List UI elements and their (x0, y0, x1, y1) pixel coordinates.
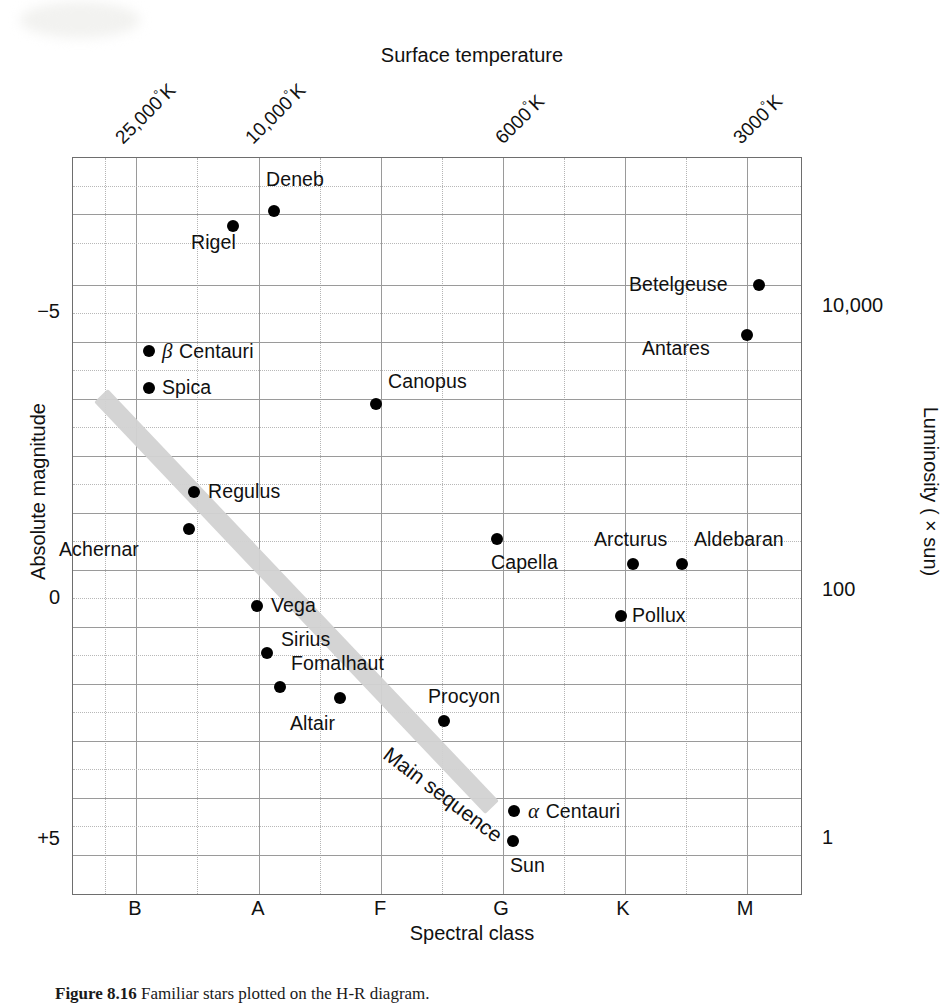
gridline-vertical (197, 158, 198, 894)
star-label: Deneb (266, 168, 324, 191)
star-point[interactable] (491, 533, 503, 545)
gridline-vertical (625, 158, 626, 894)
gridline-horizontal (73, 855, 801, 856)
star-label: α Centauri (528, 799, 620, 824)
star-label: Vega (271, 594, 316, 617)
gridline-horizontal (73, 541, 801, 542)
left-axis-title: Absolute magnitude (27, 362, 50, 622)
lum-tick-100: 100 (822, 578, 855, 601)
lum-tick-1: 1 (822, 826, 833, 849)
gridline-vertical (320, 158, 321, 894)
star-point[interactable] (507, 835, 519, 847)
temp-tick-10000: 10,000°K (239, 78, 310, 149)
gridline-horizontal (73, 627, 801, 628)
star-point[interactable] (438, 715, 450, 727)
gridline-vertical (259, 158, 260, 894)
star-point[interactable] (334, 692, 346, 704)
mag-tick-+5: +5 (0, 827, 60, 850)
star-point[interactable] (741, 329, 753, 341)
gridline-vertical (564, 158, 565, 894)
spectral-tick-F: F (360, 897, 400, 920)
star-label: Pollux (632, 604, 686, 627)
bottom-axis-title: Spectral class (0, 922, 944, 945)
lum-tick-10000: 10,000 (822, 294, 883, 317)
figure-caption: Figure 8.16 Familiar stars plotted on th… (55, 984, 430, 1003)
temp-tick-3000: 3000°K (727, 89, 787, 149)
gridline-vertical (747, 158, 748, 894)
gridline-horizontal (73, 655, 801, 656)
star-label: Betelgeuse (629, 273, 728, 296)
gridline-vertical (136, 158, 137, 894)
star-label: Altair (290, 712, 335, 735)
gridline-horizontal (73, 456, 801, 457)
gridline-horizontal (73, 712, 801, 713)
temp-tick-25000: 25,000°K (109, 78, 180, 149)
gridline-horizontal (73, 243, 801, 244)
gridline-horizontal (73, 399, 801, 400)
spectral-tick-G: G (481, 897, 521, 920)
temp-tick-6000: 6000°K (489, 89, 549, 149)
gridline-horizontal (73, 513, 801, 514)
spectral-tick-B: B (115, 897, 155, 920)
right-axis-title: Luminosity ( × sun) (919, 352, 942, 632)
gridline-vertical (686, 158, 687, 894)
gridline-vertical (503, 158, 504, 894)
star-point[interactable] (261, 647, 273, 659)
gridline-horizontal (73, 570, 801, 571)
gridline-horizontal (73, 769, 801, 770)
gridline-horizontal (73, 186, 801, 187)
star-point[interactable] (508, 805, 520, 817)
star-point[interactable] (251, 600, 263, 612)
paper-smudge (20, 2, 140, 38)
mag-tick--5: −5 (0, 300, 60, 323)
mag-tick-0: 0 (0, 586, 60, 609)
star-point[interactable] (143, 345, 155, 357)
star-point[interactable] (753, 279, 765, 291)
gridline-horizontal (73, 214, 801, 215)
star-point[interactable] (188, 486, 200, 498)
star-point[interactable] (274, 681, 286, 693)
star-point[interactable] (183, 523, 195, 535)
star-label: Canopus (388, 370, 467, 393)
gridline-vertical (381, 158, 382, 894)
star-label: Sirius (281, 628, 330, 651)
caption-text: Familiar stars plotted on the H-R diagra… (141, 984, 429, 1003)
star-label: Rigel (191, 231, 236, 254)
star-point[interactable] (676, 558, 688, 570)
star-point[interactable] (143, 382, 155, 394)
star-label: Antares (642, 337, 710, 360)
gridline-horizontal (73, 313, 801, 314)
star-point[interactable] (268, 205, 280, 217)
star-label: Regulus (208, 480, 280, 503)
star-label: Achernar (59, 538, 139, 561)
star-point[interactable] (627, 558, 639, 570)
star-label: β Centauri (162, 339, 254, 364)
top-axis-title: Surface temperature (0, 44, 944, 67)
gridline-horizontal (73, 826, 801, 827)
gridline-vertical (105, 158, 106, 894)
star-label: Fomalhaut (291, 652, 384, 675)
gridline-horizontal (73, 427, 801, 428)
spectral-tick-K: K (603, 897, 643, 920)
star-label: Capella (491, 551, 558, 574)
gridline-horizontal (73, 598, 801, 599)
spectral-tick-A: A (238, 897, 278, 920)
star-label: Arcturus (594, 528, 667, 551)
spectral-tick-M: M (725, 897, 765, 920)
star-point[interactable] (615, 610, 627, 622)
hr-diagram-figure: Surface temperature 25,000°K 10,000°K 60… (0, 0, 944, 1003)
star-label: Procyon (428, 685, 500, 708)
star-point[interactable] (370, 398, 382, 410)
star-label: Spica (162, 376, 211, 399)
star-label: Aldebaran (694, 528, 784, 551)
star-label: Sun (510, 854, 545, 877)
caption-label: Figure 8.16 (55, 984, 137, 1003)
